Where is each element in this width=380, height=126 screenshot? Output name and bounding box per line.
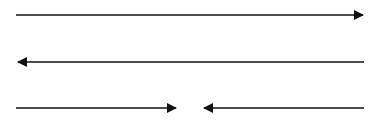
arrow-diagram	[0, 0, 380, 126]
arrows-group	[16, 15, 364, 108]
